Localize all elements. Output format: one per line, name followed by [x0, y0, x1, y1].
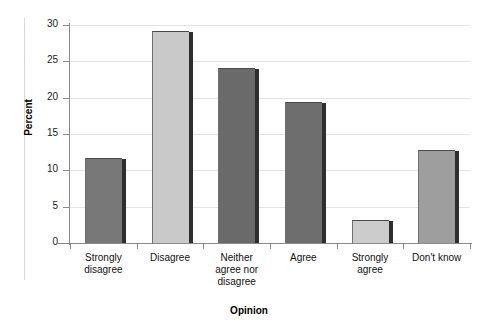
x-category-label: Disagree	[137, 252, 204, 264]
bar	[218, 68, 255, 243]
bar-shadow	[322, 103, 326, 243]
x-category-label: Neither agree nor disagree	[203, 252, 270, 288]
x-axis-title: Opinion	[0, 305, 498, 316]
bar	[285, 102, 322, 243]
x-category-label: Strongly agree	[337, 252, 404, 276]
bar-shadow	[255, 69, 259, 243]
x-tick-mark	[203, 243, 204, 249]
bar	[85, 158, 122, 243]
x-tick-mark	[470, 243, 471, 249]
x-category-label: Don't know	[403, 252, 470, 264]
bar	[152, 31, 189, 243]
bar	[418, 150, 455, 243]
x-category-label: Agree	[270, 252, 337, 264]
bar	[352, 220, 389, 243]
x-tick-mark	[137, 243, 138, 249]
bar-shadow	[455, 151, 459, 243]
x-tick-mark	[270, 243, 271, 249]
x-category-label: Strongly disagree	[70, 252, 137, 276]
bar-shadow	[122, 159, 126, 243]
x-tick-mark	[337, 243, 338, 249]
x-tick-mark	[403, 243, 404, 249]
x-tick-mark	[70, 243, 71, 249]
bar-shadow	[389, 221, 393, 243]
bar-chart-figure: Percent 051015202530 Strongly disagreeDi…	[0, 0, 498, 327]
bar-shadow	[189, 32, 193, 243]
